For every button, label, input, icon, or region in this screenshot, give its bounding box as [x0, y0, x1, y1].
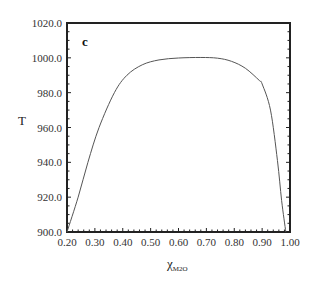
y-tick-label: 1020.0 [32, 17, 63, 29]
x-tick-label: 0.80 [225, 236, 245, 248]
x-tick-label: 0.40 [113, 236, 133, 248]
y-tick-label: 960.0 [37, 122, 62, 134]
panel-label: c [82, 34, 88, 49]
plot-border [67, 23, 290, 232]
x-axis-label: χM2O [166, 256, 188, 273]
y-axis-ticks [67, 23, 290, 232]
y-tick-label: 980.0 [37, 87, 62, 99]
x-tick-label: 0.60 [169, 236, 189, 248]
line-chart: 0.200.300.400.500.600.700.800.901.00 900… [0, 0, 314, 289]
y-axis-label: T [18, 113, 26, 128]
x-axis-label-subscript: M2O [173, 265, 188, 273]
x-axis-tick-labels: 0.200.300.400.500.600.700.800.901.00 [57, 236, 300, 248]
y-tick-label: 1000.0 [32, 52, 63, 64]
data-series-line [67, 57, 286, 232]
x-tick-label: 0.90 [253, 236, 273, 248]
x-axis-ticks [67, 228, 290, 232]
y-tick-label: 900.0 [37, 226, 62, 238]
plot-frame [67, 23, 290, 232]
x-tick-label: 1.00 [280, 236, 300, 248]
y-axis-tick-labels: 900.0920.0940.0960.0980.01000.01020.0 [32, 17, 63, 238]
x-tick-label: 0.30 [85, 236, 105, 248]
y-tick-label: 920.0 [37, 191, 62, 203]
y-tick-label: 940.0 [37, 156, 62, 168]
x-tick-label: 0.70 [197, 236, 217, 248]
x-tick-label: 0.50 [141, 236, 161, 248]
